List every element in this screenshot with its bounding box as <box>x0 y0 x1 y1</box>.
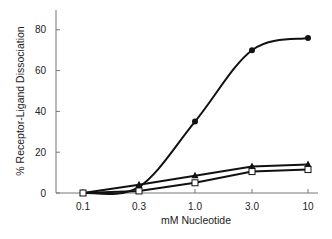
square-marker-icon <box>136 188 142 194</box>
circle-marker-icon <box>249 47 255 53</box>
y-tick-label: 60 <box>35 65 47 76</box>
nucleotide-dissociation-chart: 0204060800.10.31.03.010 mM Nucleotide % … <box>0 0 332 239</box>
square-marker-icon <box>80 190 86 196</box>
x-tick-label: 0.1 <box>76 201 90 212</box>
series-group <box>80 35 312 196</box>
y-axis-title: % Receptor-Ligand Dissociation <box>14 26 26 176</box>
y-tick-label: 80 <box>35 24 47 35</box>
x-axis-title: mM Nucleotide <box>161 214 231 226</box>
square-marker-icon <box>249 169 255 175</box>
circle-marker-icon <box>192 119 198 125</box>
series-filled-circle <box>80 35 311 196</box>
circle-marker-icon <box>305 35 311 41</box>
square-marker-icon <box>192 180 198 186</box>
x-tick-label: 0.3 <box>132 201 146 212</box>
x-tick-label: 10 <box>302 201 314 212</box>
series-line <box>83 164 308 193</box>
x-tick-label: 1.0 <box>188 201 202 212</box>
square-marker-icon <box>305 167 311 173</box>
x-tick-label: 3.0 <box>245 201 259 212</box>
y-tick-label: 40 <box>35 106 47 117</box>
y-tick-label: 20 <box>35 147 47 158</box>
y-tick-label: 0 <box>40 188 46 199</box>
